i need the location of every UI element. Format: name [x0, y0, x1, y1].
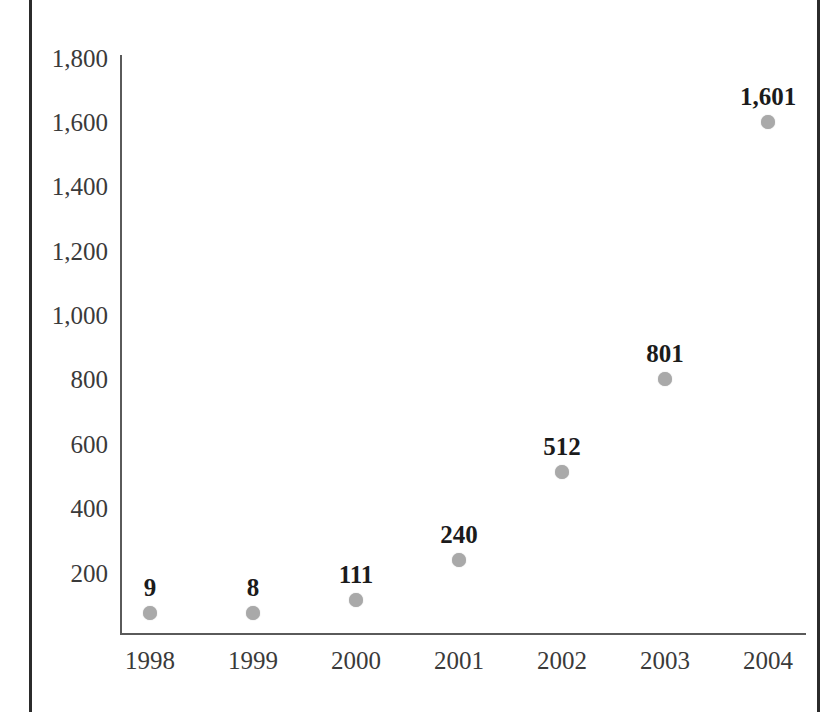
data-point-marker: [143, 606, 157, 620]
y-tick-label: 1,400: [0, 174, 108, 199]
data-point-marker: [555, 465, 569, 479]
data-point-marker: [658, 372, 672, 386]
x-tick-label: 1998: [95, 648, 205, 673]
x-tick-label: 2004: [713, 648, 823, 673]
scatter-chart: 1,8001,6001,4001,2001,000800600400200 19…: [0, 0, 840, 712]
y-tick-label: 1,200: [0, 239, 108, 264]
y-tick-label: 400: [0, 496, 108, 521]
y-tick-label: 1,600: [0, 110, 108, 135]
data-point-label: 1,601: [708, 84, 828, 109]
x-tick-label: 2001: [404, 648, 514, 673]
x-tick-label: 2002: [507, 648, 617, 673]
data-point-marker: [349, 593, 363, 607]
y-axis-line: [120, 55, 122, 635]
data-point-label: 8: [193, 575, 313, 600]
data-point-marker: [452, 553, 466, 567]
y-tick-label: 800: [0, 367, 108, 392]
y-tick-label: 1,000: [0, 303, 108, 328]
data-point-label: 240: [399, 522, 519, 547]
y-tick-label: 1,800: [0, 46, 108, 71]
data-point-marker: [246, 606, 260, 620]
data-point-label: 801: [605, 341, 725, 366]
data-point-label: 9: [90, 575, 210, 600]
x-axis-line: [120, 633, 806, 635]
scanned-page: 1,8001,6001,4001,2001,000800600400200 19…: [0, 0, 840, 712]
data-point-marker: [761, 115, 775, 129]
x-tick-label: 1999: [198, 648, 308, 673]
data-point-label: 512: [502, 434, 622, 459]
y-tick-label: 600: [0, 432, 108, 457]
data-point-label: 111: [296, 562, 416, 587]
x-tick-label: 2003: [610, 648, 720, 673]
x-tick-label: 2000: [301, 648, 411, 673]
